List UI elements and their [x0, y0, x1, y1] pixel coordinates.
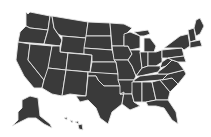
contiguous-us [16, 12, 204, 124]
alaska [12, 96, 52, 128]
state-hi[interactable] [64, 117, 83, 130]
hawaii [64, 117, 83, 130]
state-ak[interactable] [12, 96, 52, 128]
state-wy[interactable] [60, 36, 86, 54]
state-me[interactable] [194, 18, 204, 36]
state-co[interactable] [66, 53, 92, 72]
state-fl[interactable] [146, 100, 178, 124]
state-ny[interactable] [164, 34, 190, 50]
us-map [0, 0, 211, 137]
state-oh[interactable] [148, 50, 162, 66]
state-nd[interactable] [86, 22, 111, 36]
state-ma-ct-ri[interactable] [190, 40, 202, 48]
state-ms[interactable] [132, 82, 142, 102]
state-nm[interactable] [62, 70, 88, 96]
